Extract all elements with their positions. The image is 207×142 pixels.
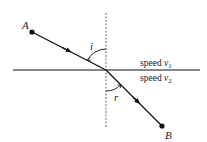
point-a-label: A bbox=[21, 19, 29, 31]
incident-arrow-icon bbox=[63, 48, 70, 51]
point-a-dot bbox=[29, 29, 34, 34]
upper-medium-label: speed v1 bbox=[140, 58, 172, 70]
incidence-angle-label: i bbox=[90, 40, 93, 52]
refraction-diagram: A B i r speed v1 speed v2 bbox=[0, 0, 207, 142]
point-b-label: B bbox=[165, 129, 172, 141]
lower-medium-label: speed v2 bbox=[140, 73, 172, 85]
refracted-arrow-icon bbox=[133, 97, 138, 102]
refraction-angle-label: r bbox=[114, 91, 119, 103]
point-b-dot bbox=[159, 123, 164, 128]
